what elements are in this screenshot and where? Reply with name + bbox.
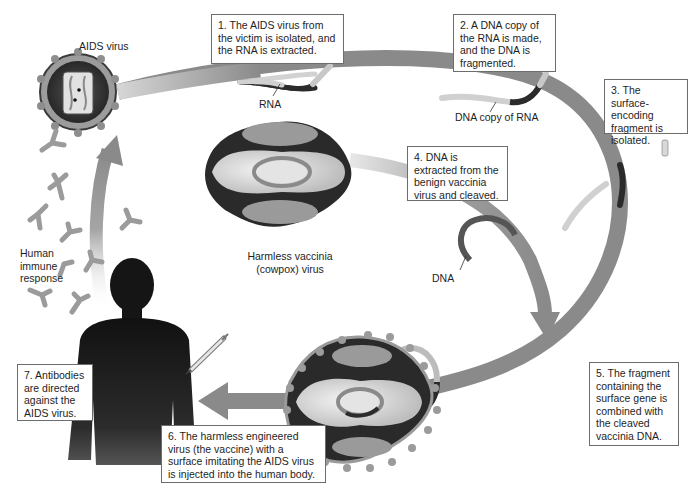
aids-virus-label: AIDS virus (79, 40, 129, 53)
step-4-text: 4. DNA is extracted from the benign vacc… (414, 151, 499, 201)
step-1-text: 1. The AIDS virus from the victim is iso… (218, 19, 335, 56)
immune-response-label: Human immune response (20, 247, 63, 285)
step-6-text: 6. The harmless engineered virus (the va… (168, 430, 315, 480)
step-1-box: 1. The AIDS virus from the victim is iso… (211, 14, 344, 64)
vaccinia-label-line2: (cowpox) virus (240, 263, 340, 276)
aids-virus-graphic (37, 48, 119, 137)
step-6-box: 6. The harmless engineered virus (the va… (161, 425, 326, 483)
immune-label-line1: Human (20, 247, 63, 260)
vaccinia-virus-graphic (205, 121, 351, 226)
immune-label-line3: response (20, 272, 63, 285)
step-4-box: 4. DNA is extracted from the benign vacc… (407, 146, 508, 201)
step-5-box: 5. The fragment containing the surface g… (589, 362, 679, 446)
step-5-text: 5. The fragment containing the surface g… (596, 367, 670, 442)
dna-copy-label: DNA copy of RNA (455, 111, 538, 124)
arrowhead-left (198, 382, 228, 420)
step-7-box: 7. Antibodies are directed against the A… (17, 364, 93, 421)
rna-label: RNA (259, 98, 281, 111)
dna-label: DNA (432, 272, 454, 285)
step-2-text: 2. A DNA copy of the RNA is made, and th… (460, 19, 542, 69)
vaccinia-label: Harmless vaccinia (cowpox) virus (240, 250, 340, 275)
diagram-art (0, 0, 690, 495)
step-2-box: 2. A DNA copy of the RNA is made, and th… (453, 14, 556, 72)
immune-label-line2: immune (20, 260, 63, 273)
step-3-box: 3. The surface-encoding fragment is isol… (604, 79, 688, 134)
syringe-graphic (186, 334, 228, 374)
vaccinia-label-line1: Harmless vaccinia (240, 250, 340, 263)
step-7-text: 7. Antibodies are directed against the A… (24, 369, 84, 419)
dna-arc-graphic (461, 218, 515, 260)
